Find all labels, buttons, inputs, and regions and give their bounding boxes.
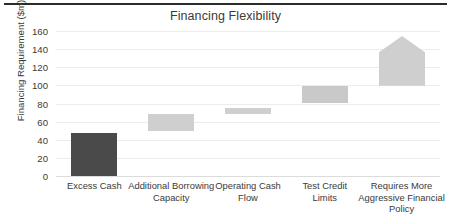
y-tick-label-0: 0 [0, 171, 48, 182]
bar-1[interactable] [148, 114, 194, 130]
x-tick-label-line: Requires More [355, 180, 448, 192]
gridline-160 [56, 31, 440, 32]
plot-area [56, 31, 440, 176]
x-tick-label-4: Requires MoreAggressive FinancialPolicy [355, 180, 448, 215]
chart-figure: Financing Flexibility Financing Requirem… [0, 0, 451, 219]
gridline-0 [56, 176, 440, 177]
top-divider-rule [4, 3, 447, 5]
arrow-shape-4 [379, 36, 425, 86]
bar-rect-0 [71, 133, 117, 177]
y-tick-label-60: 60 [0, 116, 48, 127]
gridline-100 [56, 85, 440, 86]
bar-rect-2 [225, 108, 271, 114]
gridline-80 [56, 104, 440, 105]
y-tick-label-160: 160 [0, 26, 48, 37]
bar-2[interactable] [225, 108, 271, 114]
x-tick-label-line: Policy [355, 203, 448, 215]
gridline-60 [56, 122, 440, 123]
bar-3[interactable] [302, 86, 348, 102]
y-tick-label-120: 120 [0, 62, 48, 73]
y-tick-label-40: 40 [0, 134, 48, 145]
x-tick-label-line: Aggressive Financial [355, 192, 448, 204]
bar-rect-3 [302, 86, 348, 102]
y-tick-label-100: 100 [0, 80, 48, 91]
bar-0[interactable] [71, 133, 117, 177]
y-tick-label-140: 140 [0, 44, 48, 55]
chart-title: Financing Flexibility [0, 9, 451, 23]
y-tick-label-20: 20 [0, 152, 48, 163]
bar-rect-1 [148, 114, 194, 130]
bar-4[interactable] [379, 36, 425, 86]
y-tick-label-80: 80 [0, 98, 48, 109]
